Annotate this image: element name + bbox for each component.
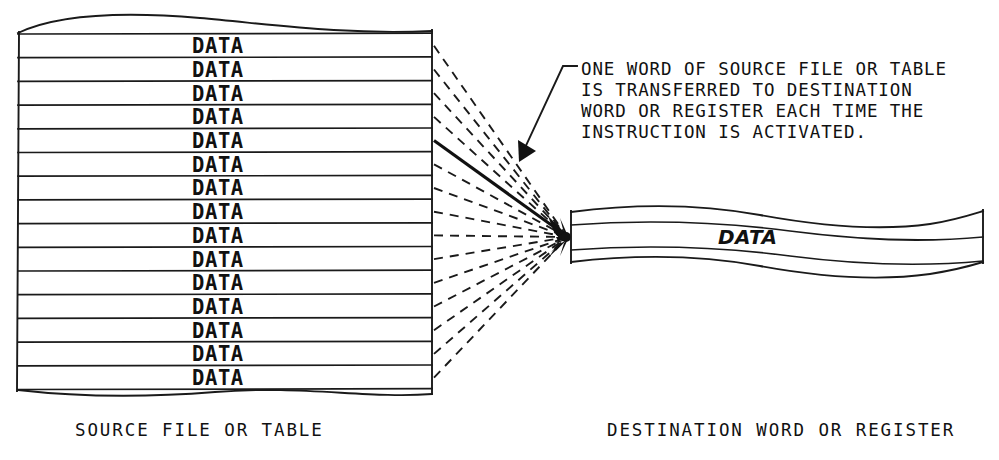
source-row-label: DATA <box>192 34 244 58</box>
source-row-label: DATA <box>192 129 244 153</box>
source-row-label: DATA <box>192 248 244 272</box>
destination-caption: DESTINATION WORD OR REGISTER <box>607 420 955 440</box>
annotation-line: ONE WORD OF SOURCE FILE OR TABLE <box>581 59 947 79</box>
source-row-label: DATA <box>192 271 244 295</box>
transfer-line <box>434 164 566 236</box>
source-row-label: DATA <box>192 319 244 343</box>
transfer-line <box>434 238 566 330</box>
transfer-line <box>434 93 566 236</box>
transfer-line <box>434 117 566 236</box>
transfer-line <box>434 46 566 236</box>
annotation-line: WORD OR REGISTER EACH TIME THE <box>581 101 924 121</box>
source-row-label: DATA <box>192 58 244 82</box>
source-row-label: DATA <box>192 176 244 200</box>
destination-row-label: DATA <box>718 225 777 249</box>
source-row-label: DATA <box>192 200 244 224</box>
source-row-labels: DATA DATA DATA DATA DATA DATA DATA DATA … <box>192 34 244 390</box>
source-row-label: DATA <box>192 105 244 129</box>
transfer-line <box>434 70 566 236</box>
source-file-block: DATA DATA DATA DATA DATA DATA DATA DATA … <box>17 15 432 396</box>
annotation-line: IS TRANSFERRED TO DESTINATION <box>581 80 913 100</box>
source-row-label: DATA <box>192 366 244 390</box>
source-row-label: DATA <box>192 224 244 248</box>
transfer-line <box>434 188 566 237</box>
diagram-canvas: DATA DATA DATA DATA DATA DATA DATA DATA … <box>0 0 999 460</box>
transfer-diagram: DATA DATA DATA DATA DATA DATA DATA DATA … <box>0 0 999 460</box>
source-row-label: DATA <box>192 82 244 106</box>
arrowhead-cluster-core <box>561 232 571 242</box>
source-row-label: DATA <box>192 342 244 366</box>
source-left-border <box>17 32 19 391</box>
source-torn-bottom-edge <box>18 390 432 396</box>
destination-torn-bottom-edge <box>571 257 983 278</box>
transfer-fan-lines <box>434 46 567 378</box>
annotation-line: INSTRUCTION IS ACTIVATED. <box>581 122 867 142</box>
transfer-line-active <box>434 141 567 237</box>
destination-word-block: DATA <box>571 206 983 278</box>
annotation-text: ONE WORD OF SOURCE FILE OR TABLE IS TRAN… <box>581 59 947 142</box>
leader-line <box>523 66 577 152</box>
transfer-line <box>434 235 566 237</box>
source-torn-top-edge <box>18 15 432 33</box>
annotation-leader <box>518 66 577 162</box>
source-row-label: DATA <box>192 153 244 177</box>
source-caption: SOURCE FILE OR TABLE <box>75 420 324 440</box>
source-row-label: DATA <box>192 295 244 319</box>
destination-row-bottom <box>571 247 983 265</box>
